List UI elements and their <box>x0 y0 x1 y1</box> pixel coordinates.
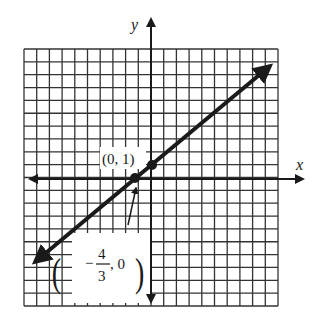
fraction-denominator: 3 <box>98 268 106 284</box>
pointer-arrow <box>128 188 136 225</box>
minus-sign: − <box>85 255 93 271</box>
point-label-y-intercept: (0, 1) <box>102 151 135 168</box>
point-y-intercept <box>147 160 157 170</box>
x-axis-label: x <box>295 156 303 173</box>
svg-text:): ) <box>135 250 144 295</box>
coordinate-plane: x y (0, 1) ( − 4 3 , 0 ) <box>0 0 323 324</box>
label-rest: , 0 <box>110 256 125 272</box>
fraction-numerator: 4 <box>98 246 106 262</box>
point-x-intercept <box>130 173 140 183</box>
svg-text:(: ( <box>52 250 61 295</box>
y-axis-label: y <box>129 16 139 34</box>
